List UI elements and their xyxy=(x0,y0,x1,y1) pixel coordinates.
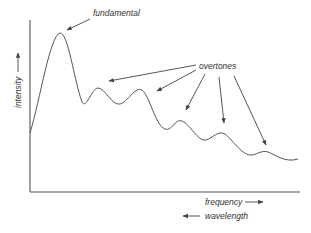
overtone-arrow-3-icon xyxy=(186,74,205,110)
overtone-arrow-5-icon xyxy=(234,76,266,145)
y-axis-label: intensity xyxy=(13,76,23,108)
frequency-label: frequency xyxy=(205,197,243,207)
spectrum-curve xyxy=(30,33,298,160)
y-axis-label-group: intensity xyxy=(13,53,23,108)
fundamental-arrow-icon xyxy=(67,19,90,30)
overtone-arrow-4-icon xyxy=(219,77,224,123)
overtones-label: overtones xyxy=(199,61,237,71)
overtone-arrow-1-icon xyxy=(109,65,196,81)
wavelength-label: wavelength xyxy=(205,211,248,221)
fundamental-label: fundamental xyxy=(93,8,141,18)
overtone-arrow-2-icon xyxy=(157,70,196,91)
spectrum-diagram: intensity fundamental overtones frequenc… xyxy=(0,0,311,233)
